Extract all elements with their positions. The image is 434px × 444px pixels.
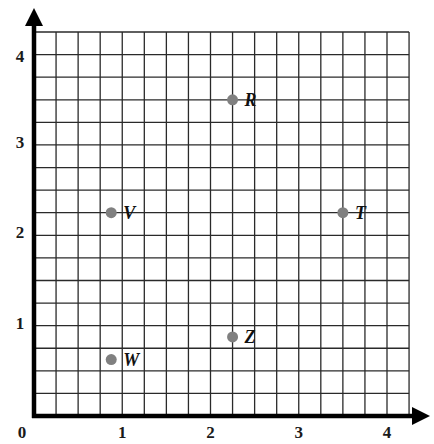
point-label: Z bbox=[244, 327, 256, 347]
point-marker-icon bbox=[106, 354, 117, 365]
grid-lines bbox=[34, 32, 409, 416]
point-label: V bbox=[123, 203, 137, 223]
point-z: Z bbox=[227, 327, 256, 347]
point-label: R bbox=[244, 90, 257, 110]
point-marker-icon bbox=[227, 331, 238, 342]
x-tick-label: 1 bbox=[118, 423, 127, 442]
point-marker-icon bbox=[106, 207, 117, 218]
x-axis-arrow-icon bbox=[412, 407, 430, 425]
point-w: W bbox=[106, 350, 142, 370]
x-tick-label: 2 bbox=[206, 423, 215, 442]
x-tick-label: 4 bbox=[383, 423, 392, 442]
y-axis-arrow-icon bbox=[25, 8, 43, 26]
point-marker-icon bbox=[227, 94, 238, 105]
point-label: T bbox=[355, 203, 367, 223]
y-tick-label: 3 bbox=[16, 133, 25, 152]
y-tick-labels: 1234 bbox=[16, 47, 25, 333]
x-tick-labels: 01234 bbox=[18, 423, 392, 442]
coordinate-grid-chart: 01234 1234 RVTZW bbox=[0, 0, 434, 444]
point-marker-icon bbox=[337, 207, 348, 218]
axes bbox=[25, 8, 430, 425]
y-tick-label: 2 bbox=[16, 223, 25, 242]
y-tick-label: 1 bbox=[16, 314, 25, 333]
x-tick-label: 0 bbox=[18, 423, 27, 442]
y-tick-label: 4 bbox=[16, 47, 25, 66]
x-tick-label: 3 bbox=[295, 423, 304, 442]
point-label: W bbox=[123, 350, 141, 370]
